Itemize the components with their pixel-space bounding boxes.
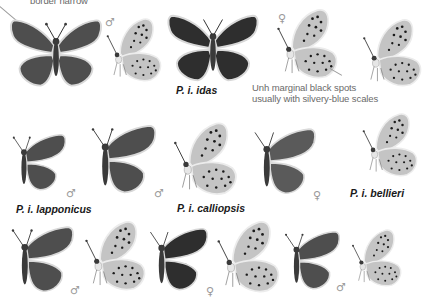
annotation-marginal-line2: usually with silvery-blue scales: [252, 93, 378, 104]
female-symbol: ♀: [313, 190, 321, 201]
label-p-i-idas: P. i. idas: [176, 84, 217, 96]
butterfly-upperside-lapponicus-male: [8, 128, 66, 198]
label-p-i-calliopsis: P. i. calliopsis: [177, 202, 245, 214]
butterfly-upperside-idas: [158, 10, 268, 86]
butterfly-underside-female-row1: [270, 6, 338, 84]
butterfly-underside-male-row1: [100, 14, 162, 88]
butterfly-underside-male-row3: [346, 224, 402, 294]
label-p-i-lapponicus: P. i. lapponicus: [16, 203, 92, 215]
butterfly-upperside-male-row2: [86, 120, 156, 200]
butterfly-underside-row3-a: [78, 216, 146, 298]
annotation-border-narrow: border narrow: [30, 0, 88, 6]
butterfly-upperside-female-row2: [246, 124, 318, 200]
male-symbol: ♂: [154, 188, 164, 199]
label-p-i-bellieri: P. i. bellieri: [350, 187, 404, 199]
butterfly-underside-female-row3: [210, 218, 280, 298]
butterfly-underside-row1-partial: [356, 14, 422, 94]
butterfly-upperside-male-row3-b: [280, 226, 340, 296]
annotation-marginal-line1: Unh marginal black spots: [252, 82, 356, 93]
butterfly-upperside-male-row1-a: [8, 14, 104, 92]
butterfly-upperside-male-row3-a: [6, 222, 74, 298]
butterfly-underside-calliopsis-male: [166, 120, 238, 200]
male-symbol: ♂: [336, 282, 346, 293]
male-symbol: ♂: [66, 188, 76, 199]
butterfly-upperside-female-row3: [144, 222, 208, 298]
butterfly-underside-bellieri: [356, 108, 418, 184]
